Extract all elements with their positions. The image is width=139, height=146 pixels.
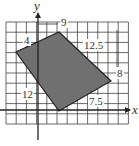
side-label: 9 — [61, 16, 67, 28]
side-label: 12.5 — [84, 39, 104, 51]
y-axis-label: y — [32, 0, 40, 13]
x-axis-label: x — [131, 102, 138, 117]
side-label: 7.5 — [89, 95, 103, 107]
side-label: 4 — [24, 34, 30, 46]
side-label: 12 — [22, 88, 33, 100]
coordinate-diagram: x y 912.587.5124 — [0, 0, 139, 146]
side-label: 8 — [117, 67, 123, 79]
